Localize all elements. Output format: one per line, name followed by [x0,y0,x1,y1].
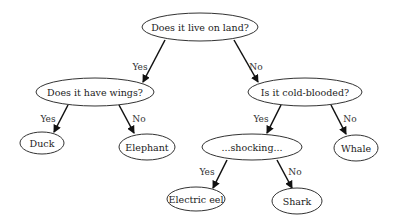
edges: Yes No Yes No Yes No Yes No [39,40,356,188]
node-label: Duck [30,138,55,149]
node-leaf-elephant: Elephant [119,134,175,160]
node-leaf-duck: Duck [20,132,64,154]
node-leaf-electric-eel: Electric eel [167,187,225,211]
edge-label-no: No [132,114,145,124]
edge-cold-to-shocking: Yes [252,105,281,133]
node-leaf-shark: Shark [272,188,322,214]
edge-shocking-to-eel: Yes [198,160,227,188]
edge-wings-to-elephant: No [119,105,146,133]
edge-shocking-to-shark: No [277,160,302,188]
node-label: Whale [341,143,372,154]
node-label: Elephant [125,142,169,153]
node-label: Does it live on land? [151,22,249,33]
nodes: Does it live on land? Does it have wings… [20,13,378,214]
node-root-question: Does it live on land? [142,13,258,41]
node-label: Does it have wings? [47,87,143,98]
node-label: Shark [283,196,312,207]
edge-label-yes: Yes [252,114,268,124]
edge-root-to-cold: No [234,40,263,82]
edge-label-yes: Yes [198,167,214,177]
edge-root-to-wings: Yes [131,40,165,82]
edge-wings-to-duck: Yes [39,105,68,132]
node-shocking-question: ...shocking... [202,134,302,160]
node-label: Is it cold-blooded? [261,87,349,98]
node-label: Electric eel [169,194,224,205]
edge-label-yes: Yes [131,62,147,72]
node-cold-blooded-question: Is it cold-blooded? [248,78,362,106]
edge-label-no: No [249,62,262,72]
edge-label-no: No [343,114,356,124]
edge-label-yes: Yes [39,114,55,124]
decision-tree-diagram: Yes No Yes No Yes No Yes No [0,0,397,222]
node-wings-question: Does it have wings? [36,78,154,106]
node-leaf-whale: Whale [334,135,378,161]
edge-cold-to-whale: No [331,105,357,134]
edge-label-no: No [288,167,301,177]
node-label: ...shocking... [221,142,282,153]
